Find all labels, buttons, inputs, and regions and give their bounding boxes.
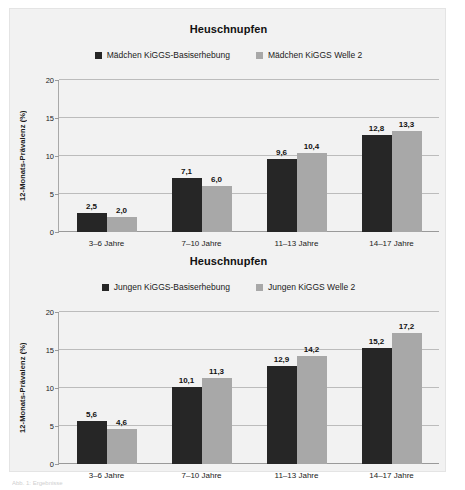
bar[interactable]: 2,5 — [77, 213, 107, 232]
bars: 2,52,0 — [59, 80, 154, 232]
x-tick-label: 11–13 Jahre — [275, 471, 319, 480]
y-tick-label: 0 — [50, 228, 54, 237]
legend-label: Jungen KiGGS-Basiserhebung — [114, 282, 230, 292]
bar-group: 2,52,03–6 Jahre — [59, 80, 154, 232]
y-tick-mark — [55, 464, 59, 465]
bars: 12,813,3 — [344, 80, 439, 232]
bar-value-label: 17,2 — [399, 322, 415, 331]
bar-value-label: 12,8 — [369, 124, 385, 133]
bar[interactable]: 14,2 — [297, 356, 327, 464]
bar[interactable]: 9,6 — [267, 159, 297, 232]
legend-swatch-icon — [95, 52, 102, 59]
bar-holder: 13,3 — [392, 80, 422, 232]
y-tick-label: 5 — [50, 190, 54, 199]
bar[interactable]: 12,9 — [267, 366, 297, 464]
bars: 5,64,6 — [59, 312, 154, 464]
bars: 7,16,0 — [154, 80, 249, 232]
y-tick-label: 15 — [46, 114, 54, 123]
figure-panel: Heuschnupfen Mädchen KiGGS-Basiserhebung… — [9, 8, 446, 472]
bar-group: 9,610,411–13 Jahre — [249, 80, 344, 232]
y-tick-label: 20 — [46, 76, 54, 85]
bar-value-label: 4,6 — [116, 418, 127, 427]
bar-holder: 2,0 — [107, 80, 137, 232]
plot-wrapper: 12-Monats-Prävalenz (%) 051015202,52,03–… — [10, 71, 447, 241]
y-axis-label: 12-Monats-Prävalenz (%) — [16, 333, 28, 443]
bar[interactable]: 10,4 — [297, 153, 327, 232]
legend-label: Mädchen KiGGS Welle 2 — [268, 50, 362, 60]
chart-title: Heuschnupfen — [10, 23, 447, 35]
bar[interactable]: 10,1 — [172, 387, 202, 464]
x-tick-label: 3–6 Jahre — [89, 471, 125, 480]
y-tick-label: 20 — [46, 308, 54, 317]
bar-holder: 10,4 — [297, 80, 327, 232]
legend-label: Jungen KiGGS Welle 2 — [268, 282, 355, 292]
chart-legend: Mädchen KiGGS-Basiserhebung Mädchen KiGG… — [10, 50, 447, 60]
bar-groups: 5,64,63–6 Jahre10,111,37–10 Jahre12,914,… — [59, 312, 439, 464]
bar-group: 7,16,07–10 Jahre — [154, 80, 249, 232]
bar[interactable]: 12,8 — [362, 135, 392, 232]
bar-holder: 11,3 — [202, 312, 232, 464]
x-tick-label: 14–17 Jahre — [369, 471, 413, 480]
legend-swatch-icon — [102, 284, 109, 291]
x-tick-label: 7–10 Jahre — [181, 471, 221, 480]
bar-value-label: 6,0 — [211, 175, 222, 184]
plot-area: 051015202,52,03–6 Jahre7,16,07–10 Jahre9… — [58, 80, 439, 232]
bar-groups: 2,52,03–6 Jahre7,16,07–10 Jahre9,610,411… — [59, 80, 439, 232]
y-tick-label: 10 — [46, 152, 54, 161]
legend-swatch-icon — [256, 52, 263, 59]
bar-value-label: 7,1 — [181, 167, 192, 176]
bar[interactable]: 15,2 — [362, 348, 392, 464]
bar[interactable]: 2,0 — [107, 217, 137, 232]
bar-group: 15,217,214–17 Jahre — [344, 312, 439, 464]
bar-group: 5,64,63–6 Jahre — [59, 312, 154, 464]
bar-holder: 17,2 — [392, 312, 422, 464]
bar-holder: 2,5 — [77, 80, 107, 232]
bar-holder: 6,0 — [202, 80, 232, 232]
y-tick-label: 15 — [46, 346, 54, 355]
y-tick-label: 0 — [50, 460, 54, 469]
bar-value-label: 5,6 — [86, 410, 97, 419]
bar[interactable]: 13,3 — [392, 131, 422, 232]
y-tick-label: 10 — [46, 384, 54, 393]
bar[interactable]: 4,6 — [107, 429, 137, 464]
chart-jungen: Heuschnupfen Jungen KiGGS-Basiserhebung … — [10, 241, 447, 473]
legend-label: Mädchen KiGGS-Basiserhebung — [107, 50, 230, 60]
chart-legend: Jungen KiGGS-Basiserhebung Jungen KiGGS … — [10, 282, 447, 292]
bar-holder: 12,9 — [267, 312, 297, 464]
bar-holder: 4,6 — [107, 312, 137, 464]
bar-value-label: 14,2 — [304, 345, 320, 354]
bar-holder: 9,6 — [267, 80, 297, 232]
bar-holder: 10,1 — [172, 312, 202, 464]
bar-value-label: 12,9 — [274, 355, 290, 364]
y-tick-label: 5 — [50, 422, 54, 431]
plot-wrapper: 12-Monats-Prävalenz (%) 051015205,64,63–… — [10, 303, 447, 473]
legend-entry: Jungen KiGGS Welle 2 — [256, 282, 355, 292]
bar-value-label: 9,6 — [276, 148, 287, 157]
bar[interactable]: 11,3 — [202, 378, 232, 464]
bar-group: 12,813,314–17 Jahre — [344, 80, 439, 232]
y-tick-mark — [55, 232, 59, 233]
legend-entry: Mädchen KiGGS Welle 2 — [256, 50, 362, 60]
legend-swatch-icon — [256, 284, 263, 291]
bar-value-label: 15,2 — [369, 337, 385, 346]
y-axis-label: 12-Monats-Prävalenz (%) — [16, 101, 28, 211]
bar-value-label: 11,3 — [209, 367, 224, 376]
bar[interactable]: 6,0 — [202, 186, 232, 232]
plot-area: 051015205,64,63–6 Jahre10,111,37–10 Jahr… — [58, 312, 439, 464]
bar-holder: 15,2 — [362, 312, 392, 464]
bar-holder: 7,1 — [172, 80, 202, 232]
bar-value-label: 10,4 — [304, 142, 320, 151]
bar-group: 10,111,37–10 Jahre — [154, 312, 249, 464]
bar[interactable]: 7,1 — [172, 178, 202, 232]
bars: 10,111,3 — [154, 312, 249, 464]
bar-holder: 12,8 — [362, 80, 392, 232]
bar[interactable]: 17,2 — [392, 333, 422, 464]
figure-caption: Abb. 1: Ergebnisse — [12, 480, 312, 486]
chart-maedchen: Heuschnupfen Mädchen KiGGS-Basiserhebung… — [10, 9, 447, 241]
bar-holder: 14,2 — [297, 312, 327, 464]
bar-value-label: 2,0 — [116, 206, 127, 215]
bars: 12,914,2 — [249, 312, 344, 464]
bar-holder: 5,6 — [77, 312, 107, 464]
bar[interactable]: 5,6 — [77, 421, 107, 464]
bar-value-label: 13,3 — [399, 120, 415, 129]
